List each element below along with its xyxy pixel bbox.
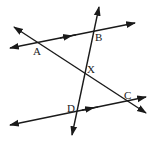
point-label-d: D [67, 102, 75, 114]
parallel-arrow-icon [82, 107, 98, 110]
point-label-b: B [95, 31, 102, 43]
bottom-parallel-line [10, 97, 146, 125]
point-label-x: X [87, 63, 95, 75]
top-parallel-line [10, 23, 135, 48]
parallel-arrow-icon [60, 35, 76, 38]
geometry-diagram: A B X C D [0, 0, 158, 144]
point-label-c: C [124, 89, 131, 101]
point-label-a: A [33, 45, 41, 57]
